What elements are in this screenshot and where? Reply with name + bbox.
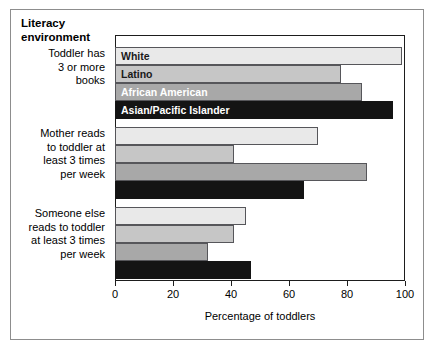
- category-label-line: Mother reads: [9, 127, 105, 141]
- bar-white-group-2: [115, 127, 318, 145]
- category-label-line: books: [9, 74, 105, 88]
- category-label-line: at least 3 times: [9, 234, 105, 248]
- chart-figure: Literacy environment Toddler has 3 or mo…: [0, 0, 436, 351]
- bar-latino-group-2: [115, 145, 234, 163]
- category-label-line: to toddler at: [9, 141, 105, 155]
- x-tick-label-60: 60: [269, 288, 309, 300]
- x-axis-title: Percentage of toddlers: [115, 310, 405, 322]
- x-tick-label-0: 0: [95, 288, 135, 300]
- category-label-mother-reads: Mother reads to toddler at least 3 times…: [9, 127, 105, 181]
- category-label-line: per week: [9, 248, 105, 262]
- category-label-line: reads to toddler: [9, 221, 105, 235]
- x-tick-40: [231, 281, 232, 286]
- bar-latino-group-3: [115, 225, 234, 243]
- bar-asian-pacific-islander-group-3: [115, 261, 251, 279]
- category-label-line: least 3 times: [9, 154, 105, 168]
- category-label-line: 3 or more: [9, 61, 105, 75]
- bar-african-american-group-3: [115, 243, 208, 261]
- bar-african-american-group-2: [115, 163, 367, 181]
- x-tick-label-40: 40: [211, 288, 251, 300]
- series-label: African American: [116, 86, 208, 98]
- bar-latino-group-1: Latino: [115, 65, 341, 83]
- bar-african-american-group-1: African American: [115, 83, 362, 101]
- x-tick-60: [289, 281, 290, 286]
- bar-white-group-3: [115, 207, 246, 225]
- category-label-line: Toddler has: [9, 47, 105, 61]
- x-tick-0: [115, 281, 116, 286]
- series-label: Asian/Pacific Islander: [116, 104, 230, 116]
- bar-white-group-1: White: [115, 47, 402, 65]
- category-label-line: per week: [9, 168, 105, 182]
- x-tick-100: [405, 281, 406, 286]
- bar-asian-pacific-islander-group-1: Asian/Pacific Islander: [115, 101, 393, 119]
- bar-asian-pacific-islander-group-2: [115, 181, 304, 199]
- chart-heading: Literacy environment: [21, 17, 125, 44]
- x-tick-20: [173, 281, 174, 286]
- category-label-line: Someone else: [9, 207, 105, 221]
- x-tick-80: [347, 281, 348, 286]
- x-tick-label-100: 100: [385, 288, 425, 300]
- x-tick-label-20: 20: [153, 288, 193, 300]
- category-label-books: Toddler has 3 or more books: [9, 47, 105, 88]
- series-label: Latino: [116, 68, 153, 80]
- category-label-someone-else-reads: Someone else reads to toddler at least 3…: [9, 207, 105, 261]
- series-label: White: [116, 50, 150, 62]
- x-tick-label-80: 80: [327, 288, 367, 300]
